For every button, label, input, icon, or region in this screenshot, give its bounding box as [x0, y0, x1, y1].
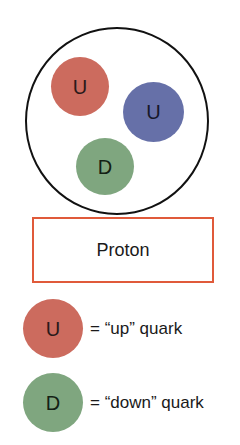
up-quark-blue: U	[123, 82, 184, 142]
up-quark-swatch: U	[23, 299, 83, 358]
legend-text: = “up” quark	[90, 319, 182, 339]
quark-label: U	[146, 102, 160, 122]
down-quark-swatch: D	[23, 373, 83, 432]
legend-symbol: U	[46, 319, 60, 339]
quark-label: U	[73, 77, 87, 97]
proton-label: Proton	[96, 240, 149, 261]
legend-item-down-quark: D = “down” quark	[23, 373, 204, 432]
proton-caption-box: Proton	[32, 217, 214, 283]
legend-item-up-quark: U = “up” quark	[23, 299, 182, 358]
up-quark-red: U	[51, 57, 109, 116]
legend-symbol: D	[46, 393, 60, 413]
legend-text: = “down” quark	[90, 393, 204, 413]
quark-label: D	[98, 157, 112, 177]
down-quark-green: D	[76, 138, 134, 195]
